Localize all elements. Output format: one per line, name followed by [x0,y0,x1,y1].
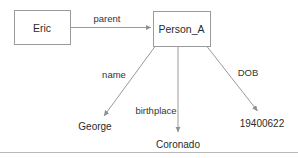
bottom-divider [0,152,298,153]
edge-dob-label: DOB [238,68,259,78]
edge-dob-line [207,47,258,112]
edge-birthplace-label: birthplace [135,106,176,116]
edge-name-label: name [102,70,126,80]
knowledge-graph-diagram: Eric Person_A parent name birthplace DOB… [0,0,298,158]
node-eric-label: Eric [33,22,51,33]
leaf-george-label: George [78,122,111,132]
node-person-a-label: Person_A [158,23,204,34]
leaf-coronado-label: Coronado [156,140,200,150]
leaf-dob-value-label: 19400622 [240,119,285,129]
edge-parent-label: parent [94,14,121,24]
